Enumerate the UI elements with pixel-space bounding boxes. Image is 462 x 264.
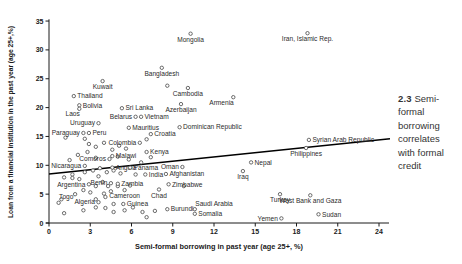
country-point bbox=[122, 202, 125, 205]
country-point bbox=[111, 154, 114, 157]
y-tick-label: 25 bbox=[36, 75, 44, 82]
data-point bbox=[134, 173, 137, 176]
x-tick-label: 6 bbox=[130, 228, 134, 235]
y-tick-label: 30 bbox=[36, 46, 44, 53]
country-label: Cameroon bbox=[109, 192, 140, 199]
country-label: Saudi Arabia bbox=[195, 200, 233, 207]
data-point bbox=[145, 138, 148, 141]
x-tick-label: 24 bbox=[375, 228, 383, 235]
y-axis-title: Loan from a financial institution in the… bbox=[6, 25, 15, 218]
country-point bbox=[280, 217, 283, 220]
country-label: Peru bbox=[92, 129, 106, 136]
country-point bbox=[108, 157, 111, 160]
data-point bbox=[82, 188, 85, 191]
country-label: Thailand bbox=[77, 92, 103, 99]
data-point bbox=[141, 210, 144, 213]
data-point bbox=[124, 147, 127, 150]
data-point bbox=[98, 167, 101, 170]
country-label: Cambodia bbox=[173, 90, 203, 97]
country-point bbox=[317, 213, 320, 216]
data-point bbox=[89, 191, 92, 194]
figure-caption: 2.3 Semi-formal borrowing correlates wit… bbox=[398, 92, 452, 172]
country-label: Armenia bbox=[209, 99, 234, 106]
y-tick-label: 20 bbox=[36, 104, 44, 111]
country-label: Benin bbox=[91, 179, 108, 186]
country-point bbox=[83, 164, 86, 167]
country-label: Argentina bbox=[57, 181, 86, 189]
data-point bbox=[145, 216, 148, 219]
country-point bbox=[138, 141, 141, 144]
data-point bbox=[119, 172, 122, 175]
country-point bbox=[307, 138, 310, 141]
country-label: Belarus bbox=[110, 113, 133, 120]
country-label: Colombia bbox=[108, 139, 136, 146]
data-point bbox=[111, 148, 114, 151]
country-point bbox=[149, 132, 152, 135]
country-label: Nicaragua bbox=[51, 162, 81, 170]
data-point bbox=[104, 206, 107, 209]
data-point bbox=[94, 145, 97, 148]
country-label: Algeria bbox=[74, 198, 95, 206]
country-label: Afghanistan bbox=[169, 170, 204, 178]
caption-number: 2.3 bbox=[398, 93, 412, 104]
country-point bbox=[116, 182, 119, 185]
data-point bbox=[83, 171, 86, 174]
country-point bbox=[128, 166, 131, 169]
country-point bbox=[193, 208, 196, 211]
country-point bbox=[166, 208, 169, 211]
country-label: India bbox=[149, 171, 164, 178]
country-point bbox=[78, 104, 81, 107]
country-point bbox=[249, 161, 252, 164]
country-point bbox=[72, 94, 75, 97]
country-label: Togo bbox=[59, 193, 74, 201]
caption-text: Semi-formal borrowing correlates with fo… bbox=[398, 93, 444, 171]
country-point bbox=[120, 107, 123, 110]
country-label: Vietnam bbox=[145, 113, 170, 120]
country-label: Malawi bbox=[116, 152, 137, 159]
country-label: Paraguay bbox=[52, 129, 81, 137]
data-point bbox=[64, 136, 67, 139]
x-tick-label: 3 bbox=[88, 228, 92, 235]
x-tick-label: 0 bbox=[47, 228, 51, 235]
x-tick-label: 12 bbox=[210, 228, 218, 235]
country-point bbox=[97, 201, 100, 204]
country-label: Uruguay bbox=[70, 119, 96, 127]
country-label: Philippines bbox=[290, 150, 323, 158]
y-tick-label: 5 bbox=[40, 191, 44, 198]
data-point bbox=[62, 176, 65, 179]
scatter-plot-svg: 0510152025303503691215182124MongoliaIran… bbox=[0, 0, 462, 264]
data-point bbox=[102, 192, 105, 195]
country-label: Guinea bbox=[127, 200, 149, 207]
x-axis-title: Semi-formal borrowing in past year (age … bbox=[135, 242, 304, 251]
country-label: Iraq bbox=[237, 173, 249, 181]
country-label: Azerbaijan bbox=[165, 106, 196, 114]
country-label: West Bank and Gaza bbox=[279, 197, 342, 204]
x-tick-label: 21 bbox=[334, 228, 342, 235]
country-point bbox=[167, 183, 170, 186]
country-label: Yemen bbox=[258, 215, 279, 222]
country-label: Laos bbox=[65, 110, 80, 117]
data-point bbox=[105, 171, 108, 174]
data-point bbox=[112, 202, 115, 205]
country-label: Bangladesh bbox=[144, 70, 179, 78]
country-label: Zambia bbox=[121, 180, 143, 187]
data-point bbox=[87, 142, 90, 145]
country-label: Burundi bbox=[171, 205, 194, 212]
country-point bbox=[57, 201, 60, 204]
x-tick-label: 9 bbox=[171, 228, 175, 235]
y-tick-label: 15 bbox=[36, 133, 44, 140]
country-label: Somalia bbox=[198, 210, 222, 217]
country-label: Zimbabwe bbox=[172, 181, 203, 188]
country-label: Kuwait bbox=[93, 83, 113, 90]
data-point bbox=[149, 156, 152, 159]
country-point bbox=[144, 173, 147, 176]
country-label: Oman bbox=[161, 163, 179, 170]
country-point bbox=[178, 126, 181, 129]
country-label: Nepal bbox=[255, 159, 273, 167]
country-point bbox=[181, 165, 184, 168]
country-point bbox=[145, 150, 148, 153]
data-point bbox=[82, 209, 85, 212]
data-point bbox=[123, 209, 126, 212]
data-point bbox=[153, 209, 156, 212]
x-tick-label: 18 bbox=[293, 228, 301, 235]
